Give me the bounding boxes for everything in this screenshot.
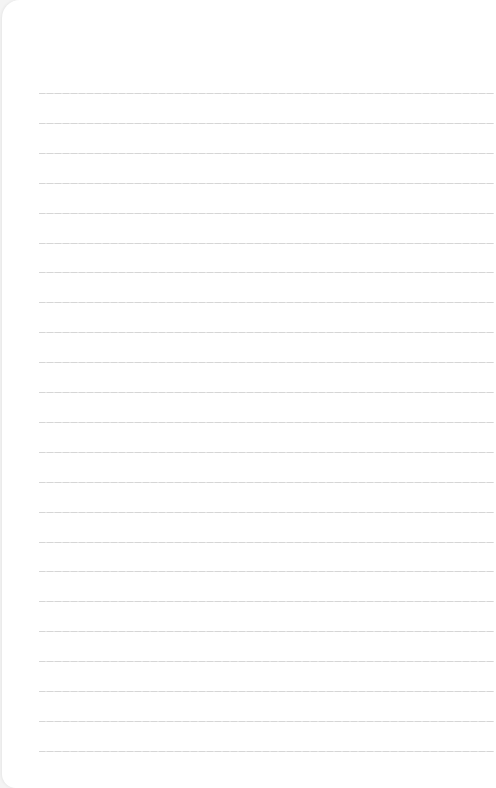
ruled-line bbox=[39, 512, 494, 513]
ruled-line bbox=[39, 302, 494, 303]
ruled-line bbox=[39, 243, 494, 244]
ruled-line bbox=[39, 661, 494, 662]
ruled-line bbox=[39, 571, 494, 572]
ruled-line bbox=[39, 272, 494, 273]
ruled-line bbox=[39, 691, 494, 692]
ruled-line bbox=[39, 452, 494, 453]
ruled-line bbox=[39, 332, 494, 333]
ruled-line bbox=[39, 183, 494, 184]
ruled-line bbox=[39, 631, 494, 632]
ruled-line bbox=[39, 93, 494, 94]
ruled-line bbox=[39, 601, 494, 602]
ruled-line bbox=[39, 153, 494, 154]
ruled-line bbox=[39, 751, 494, 752]
ruled-line bbox=[39, 392, 494, 393]
ruled-line bbox=[39, 542, 494, 543]
ruled-line bbox=[39, 422, 494, 423]
ruled-line bbox=[39, 362, 494, 363]
ruled-line bbox=[39, 482, 494, 483]
ruled-line bbox=[39, 721, 494, 722]
ruled-line bbox=[39, 213, 494, 214]
ruled-line bbox=[39, 123, 494, 124]
lined-paper-sheet bbox=[2, 0, 496, 788]
